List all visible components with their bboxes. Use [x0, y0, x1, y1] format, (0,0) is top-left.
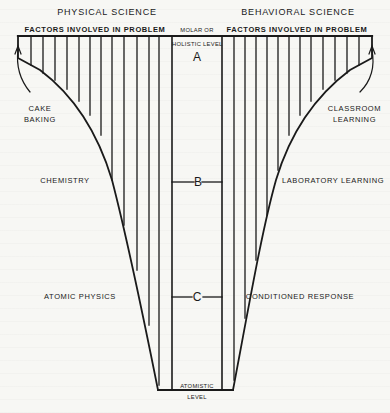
baking-label: BAKING [15, 115, 65, 124]
laboratory-learning-label: LABORATORY LEARNING [282, 176, 382, 185]
atomistic-label: ATOMISTIC [172, 383, 222, 389]
behavioral-science-heading: BEHAVIORAL SCIENCE [228, 7, 368, 17]
left-factors-label: FACTORS INVOLVED IN PROBLEM [18, 25, 172, 34]
right-factors-label: FACTORS INVOLVED IN PROBLEM [222, 25, 372, 34]
level-b-label: B [190, 175, 206, 189]
level-label: LEVEL [172, 394, 222, 400]
chemistry-label: CHEMISTRY [30, 176, 100, 185]
classroom-label: CLASSROOM [322, 104, 387, 113]
holistic-level-label: HOLISTIC LEVEL [172, 41, 222, 47]
cake-label: CAKE [15, 104, 65, 113]
atomic-physics-label: ATOMIC PHYSICS [35, 292, 125, 301]
molar-or-label: MOLAR OR [172, 27, 222, 33]
level-c-label: C [189, 290, 205, 304]
learning-label: LEARNING [322, 115, 387, 124]
physical-science-heading: PHYSICAL SCIENCE [42, 7, 172, 17]
conditioned-response-label: CONDITIONED RESPONSE [245, 292, 355, 301]
right-funnel-curve [233, 36, 372, 390]
cake-baking-arrow-icon [18, 50, 31, 92]
level-a-label: A [172, 50, 222, 64]
